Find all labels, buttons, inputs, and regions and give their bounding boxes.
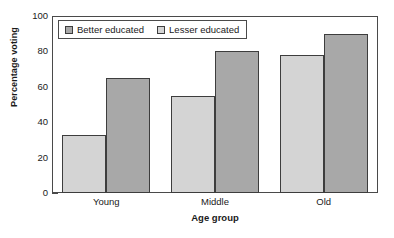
legend-swatch-icon [65,26,73,34]
bar [280,55,324,193]
bar-series-group [52,16,378,193]
legend-item-lesser-educated: Lesser educated [157,24,239,35]
bar [62,135,106,193]
legend-label: Better educated [77,24,144,35]
bar [171,96,215,193]
y-tick-label: 20 [14,152,48,163]
legend-swatch-icon [157,26,165,34]
y-tick-label: 0 [14,187,48,198]
y-tick-label: 100 [14,10,48,21]
x-tick-label: Middle [201,196,229,207]
x-axis-title: Age group [52,212,378,223]
legend-label: Lesser educated [169,24,239,35]
chart-title [0,0,394,1]
legend-item-better-educated: Better educated [65,24,144,35]
bar [324,34,368,193]
chart-legend: Better educated Lesser educated [58,20,247,39]
y-tick-label: 60 [14,81,48,92]
y-tick-label: 80 [14,45,48,56]
bar-chart: Percentage voting 020406080100 Better ed… [0,0,394,238]
bar [106,78,150,193]
y-tick-label: 40 [14,116,48,127]
x-tick-label: Young [93,196,120,207]
x-tick-label: Old [316,196,331,207]
bar [215,51,259,193]
